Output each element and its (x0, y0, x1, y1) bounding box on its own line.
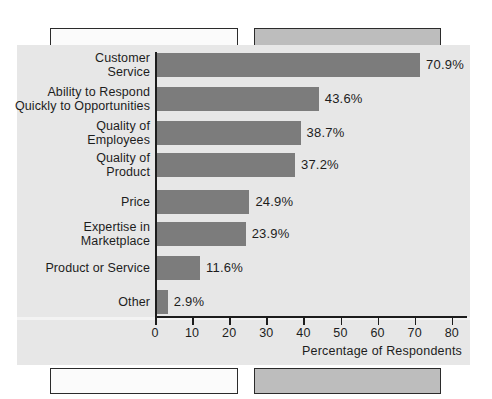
bar-row: Expertise in Marketplace23.9% (17, 222, 470, 246)
bar-row: Quality of Product37.2% (17, 153, 470, 177)
bar-value-label: 43.6% (325, 91, 363, 106)
chart-screenshot: 01020304050607080Customer Service70.9%Ab… (0, 0, 492, 399)
x-axis-tick (341, 318, 343, 325)
bar (157, 87, 319, 111)
bar (157, 53, 420, 77)
bar-row: Ability to Respond Quickly to Opportunit… (17, 87, 470, 111)
bar-value-label: 24.9% (255, 194, 293, 209)
x-axis-tick-label: 50 (326, 326, 356, 340)
background-box-bottom-left (50, 368, 238, 394)
bar (157, 222, 246, 246)
category-label: Price (0, 195, 150, 209)
x-axis-tick-label: 20 (214, 326, 244, 340)
category-label: Quality of Employees (0, 119, 150, 147)
bar (157, 121, 301, 145)
x-axis-tick (452, 318, 454, 325)
bar-value-label: 38.7% (307, 125, 345, 140)
x-axis-tick-label: 0 (140, 326, 170, 340)
background-box-bottom-right (254, 368, 441, 394)
bar-row: Product or Service11.6% (17, 256, 470, 280)
category-label: Other (0, 295, 150, 309)
plot-area: 01020304050607080Customer Service70.9%Ab… (17, 45, 470, 365)
x-axis-tick (192, 318, 194, 325)
bar-value-label: 11.6% (206, 260, 243, 275)
x-axis-tick (155, 318, 157, 325)
bar-row: Quality of Employees38.7% (17, 121, 470, 145)
bar (157, 190, 249, 214)
category-label: Customer Service (0, 51, 150, 79)
x-axis-title: Percentage of Respondents (177, 344, 462, 358)
x-axis-tick (229, 318, 231, 325)
bar-row: Other2.9% (17, 290, 470, 314)
x-axis-tick-label: 10 (177, 326, 207, 340)
bar-value-label: 37.2% (301, 157, 339, 172)
bar-row: Customer Service70.9% (17, 53, 470, 77)
x-axis-tick-label: 80 (437, 326, 467, 340)
bar (157, 290, 168, 314)
bar-value-label: 70.9% (426, 57, 464, 72)
category-label: Ability to Respond Quickly to Opportunit… (0, 85, 150, 113)
category-label: Quality of Product (0, 151, 150, 179)
bar (157, 153, 295, 177)
x-axis-tick-label: 40 (288, 326, 318, 340)
bar-value-label: 2.9% (174, 294, 204, 309)
chart-panel: 01020304050607080Customer Service70.9%Ab… (17, 45, 470, 365)
bar-row: Price24.9% (17, 190, 470, 214)
bar-value-label: 23.9% (252, 226, 290, 241)
category-label: Product or Service (0, 261, 150, 275)
x-axis-line (155, 316, 467, 318)
x-axis-tick (266, 318, 268, 325)
x-axis-tick (415, 318, 417, 325)
x-axis-tick-label: 30 (251, 326, 281, 340)
x-axis-tick (378, 318, 380, 325)
x-axis-tick-label: 60 (363, 326, 393, 340)
category-label: Expertise in Marketplace (0, 220, 150, 248)
bar (157, 256, 200, 280)
x-axis-tick-label: 70 (400, 326, 430, 340)
x-axis-tick (303, 318, 305, 325)
